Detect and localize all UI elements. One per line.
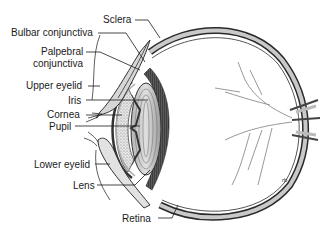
- label-iris: Iris: [68, 95, 81, 106]
- label-palpebral-conjunctiva-line1: Palpebral: [41, 46, 83, 57]
- label-lower-eyelid: Lower eyelid: [34, 159, 90, 170]
- label-pupil: Pupil: [49, 121, 71, 132]
- svg-text:rb: rb: [282, 177, 288, 183]
- label-sclera: Sclera: [103, 14, 131, 25]
- lens: [131, 83, 161, 175]
- retinal-vessels: [215, 62, 292, 185]
- label-cornea: Cornea: [47, 109, 80, 120]
- label-bulbar-conjunctiva: Bulbar conjunctiva: [11, 27, 93, 38]
- label-retina: Retina: [122, 213, 151, 224]
- eye-anatomy-diagram: rb Sclera Bulbar conjunctiva Palpebral c…: [0, 0, 322, 233]
- label-lens: Lens: [73, 180, 95, 191]
- label-upper-eyelid: Upper eyelid: [26, 80, 82, 91]
- label-palpebral-conjunctiva-line2: conjunctiva: [33, 58, 83, 69]
